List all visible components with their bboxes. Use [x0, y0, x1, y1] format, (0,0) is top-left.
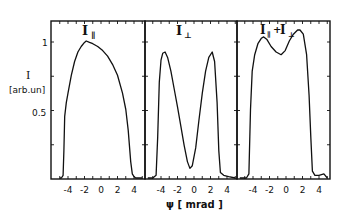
xtick-label: 2: [208, 185, 214, 195]
curve-2: [148, 52, 236, 178]
panel3-title: I ∥ + I ⊥: [260, 23, 295, 39]
x-tick-labels: -4-2024-4-2024-4-2024: [64, 185, 323, 195]
y-axis-unit: [arb.un]: [9, 85, 45, 95]
y-axis-label: I: [26, 69, 30, 82]
xtick-label: -2: [80, 185, 89, 195]
xtick-label: -4: [249, 185, 258, 195]
xtick-label: 0: [191, 185, 197, 195]
panel-frame-1: [51, 21, 145, 179]
xtick-label: -2: [265, 185, 274, 195]
xtick-label: 0: [283, 185, 289, 195]
panel1-title: I ∥: [82, 23, 95, 40]
data-curves: [60, 30, 328, 178]
chart-figure: I [arb.un] 1 0.5 I ∥ I ⊥ I ∥ + I ⊥ -4-20…: [0, 0, 340, 216]
xtick-label: 2: [300, 185, 306, 195]
svg-text:I: I: [82, 23, 88, 38]
ytick-label-0.5: 0.5: [32, 108, 46, 118]
curve-1: [60, 41, 143, 178]
svg-text:⊥: ⊥: [288, 30, 295, 39]
svg-text:I: I: [176, 23, 182, 38]
xtick-label: 4: [224, 185, 230, 195]
xtick-label: 0: [98, 185, 104, 195]
xtick-label: 2: [115, 185, 121, 195]
xtick-label: 4: [316, 185, 322, 195]
xtick-label: -4: [157, 185, 166, 195]
xtick-label: 4: [131, 185, 137, 195]
xtick-label: -2: [173, 185, 182, 195]
ytick-label-1: 1: [42, 38, 48, 48]
curve-3: [240, 30, 327, 178]
svg-text:∥: ∥: [267, 30, 271, 39]
svg-text:⊥: ⊥: [184, 30, 192, 40]
x-axis-label: ψ [ mrad ]: [166, 199, 223, 210]
panel2-title: I ⊥: [176, 23, 192, 40]
svg-text:∥: ∥: [91, 30, 95, 40]
xtick-label: -4: [64, 185, 73, 195]
svg-text:I: I: [280, 23, 286, 37]
svg-text:I: I: [260, 23, 266, 37]
